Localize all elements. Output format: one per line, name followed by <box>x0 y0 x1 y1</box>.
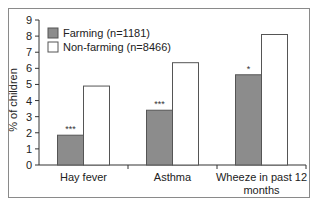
legend-label: Farming (n=1181) <box>63 27 150 39</box>
y-tick-label: 5 <box>26 78 32 90</box>
bar-farming <box>58 135 84 165</box>
bar-chart: 0123456789 Hay feverAsthmaWheeze in past… <box>0 0 319 208</box>
y-tick-label: 2 <box>26 127 32 139</box>
y-tick-label: 7 <box>26 46 32 58</box>
x-category-label: Hay fever <box>60 171 107 183</box>
legend-swatch <box>48 28 58 38</box>
bars: ******* <box>58 35 288 166</box>
bar-non-farming <box>262 35 288 166</box>
x-axis: Hay feverAsthmaWheeze in past 12months <box>39 165 307 196</box>
significance-marker: *** <box>65 124 76 134</box>
y-tick-label: 1 <box>26 143 32 155</box>
bar-farming <box>147 110 173 165</box>
x-category-label: months <box>243 184 280 196</box>
legend-label: Non-farming (n=8466) <box>63 41 171 53</box>
legend: Farming (n=1181)Non-farming (n=8466) <box>48 27 171 53</box>
y-tick-label: 9 <box>26 14 32 26</box>
bar-non-farming <box>84 86 110 165</box>
bar-non-farming <box>173 63 199 165</box>
x-category-label: Wheeze in past 12 <box>216 171 307 183</box>
bar-farming <box>236 75 262 165</box>
y-tick-label: 0 <box>26 159 32 171</box>
y-tick-label: 6 <box>26 62 32 74</box>
y-axis: 0123456789 <box>26 14 39 171</box>
y-tick-label: 3 <box>26 111 32 123</box>
y-axis-label: % of children <box>7 68 19 132</box>
y-tick-label: 8 <box>26 30 32 42</box>
significance-marker: * <box>247 64 251 74</box>
x-category-label: Asthma <box>154 171 192 183</box>
significance-marker: *** <box>154 99 165 109</box>
y-tick-label: 4 <box>26 95 32 107</box>
legend-swatch <box>48 42 58 52</box>
